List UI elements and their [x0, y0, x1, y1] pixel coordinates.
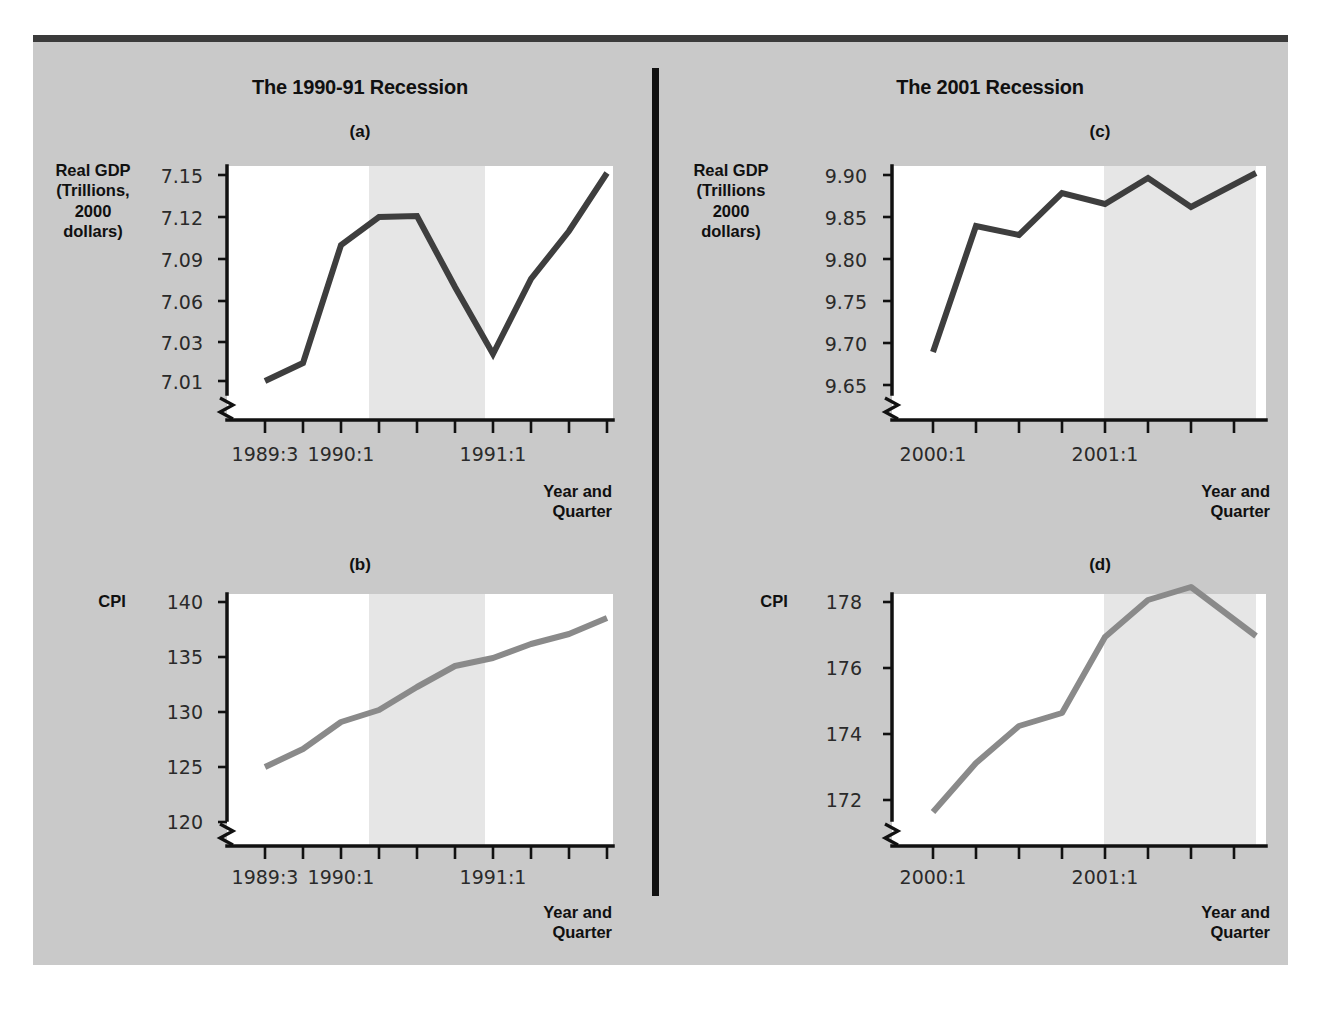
chart-d-recession-band — [1104, 594, 1256, 846]
chart-b-xtick-label-2: 1991:1 — [449, 866, 537, 888]
chart-a-ytick-0: 7.15 — [145, 165, 203, 187]
chart-a-x-axis-title: Year and Quarter — [452, 482, 612, 522]
chart-b-plot — [205, 588, 625, 868]
chart-b-ytick-4: 120 — [145, 811, 203, 833]
chart-c-ytick-5: 9.65 — [805, 375, 867, 397]
right-panel-title: The 2001 Recession — [810, 76, 1170, 99]
chart-b-recession-band — [369, 594, 485, 846]
chart-a-plot — [205, 160, 625, 435]
chart-d-x-axis-title: Year and Quarter — [1110, 903, 1270, 943]
chart-c-ytick-4: 9.70 — [805, 333, 867, 355]
chart-d-xtick-label-1: 2001:1 — [1061, 866, 1149, 888]
chart-a-ytick-3: 7.06 — [145, 291, 203, 313]
chart-c-plot — [870, 160, 1280, 435]
chart-a-xtick-label-0: 1989:3 — [221, 443, 309, 465]
chart-a-y-axis-title: Real GDP (Trillions, 2000 dollars) — [34, 160, 152, 242]
chart-a-ytick-4: 7.03 — [145, 332, 203, 354]
chart-d-y-axis-title: CPI — [740, 591, 808, 611]
chart-a-xtick-label-2: 1991:1 — [449, 443, 537, 465]
chart-b-ytick-0: 140 — [145, 591, 203, 613]
chart-b-xtick-label-1: 1990:1 — [297, 866, 385, 888]
figure-root: The 1990-91 Recession The 2001 Recession… — [0, 0, 1327, 1019]
chart-c-ytick-1: 9.85 — [805, 207, 867, 229]
panel-divider — [652, 68, 659, 896]
chart-a-xtick-label-1: 1990:1 — [297, 443, 385, 465]
chart-d-ytick-1: 176 — [810, 657, 862, 679]
chart-d-plot — [870, 588, 1280, 868]
chart-c-letter: (c) — [1040, 122, 1160, 142]
chart-a-recession-band — [369, 166, 485, 420]
left-panel-title: The 1990-91 Recession — [180, 76, 540, 99]
chart-a-ytick-2: 7.09 — [145, 249, 203, 271]
chart-b-xtick-label-0: 1989:3 — [221, 866, 309, 888]
chart-c-xtick-label-0: 2000:1 — [889, 443, 977, 465]
chart-d-xtick-label-0: 2000:1 — [889, 866, 977, 888]
chart-b-ytick-1: 135 — [145, 646, 203, 668]
chart-c-y-axis-title: Real GDP (Trillions 2000 dollars) — [666, 160, 796, 242]
chart-a-ytick-1: 7.12 — [145, 207, 203, 229]
chart-b-y-axis-title: CPI — [78, 591, 146, 611]
chart-d-ytick-3: 172 — [810, 789, 862, 811]
chart-c-xtick-label-1: 2001:1 — [1061, 443, 1149, 465]
chart-c-recession-band — [1104, 166, 1256, 420]
chart-c-ytick-0: 9.90 — [805, 165, 867, 187]
chart-d-letter: (d) — [1040, 555, 1160, 575]
chart-c-ytick-2: 9.80 — [805, 249, 867, 271]
chart-b-ytick-2: 130 — [145, 701, 203, 723]
chart-a-ytick-5: 7.01 — [145, 371, 203, 393]
chart-c-ytick-3: 9.75 — [805, 291, 867, 313]
chart-b-letter: (b) — [300, 555, 420, 575]
chart-d-ytick-2: 174 — [810, 723, 862, 745]
chart-c-x-axis-title: Year and Quarter — [1110, 482, 1270, 522]
chart-a-letter: (a) — [300, 122, 420, 142]
chart-b-ytick-3: 125 — [145, 756, 203, 778]
chart-b-x-axis-title: Year and Quarter — [452, 903, 612, 943]
chart-d-ytick-0: 178 — [810, 591, 862, 613]
